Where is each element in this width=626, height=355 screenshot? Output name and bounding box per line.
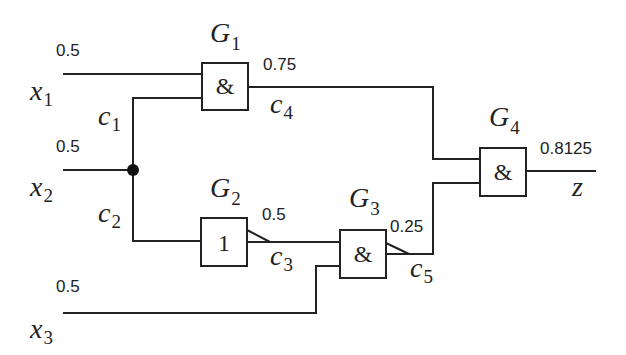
label-x1: x1 [29, 75, 53, 110]
prob-z: 0.8125 [540, 139, 592, 158]
gate-label-g2: G2 [210, 172, 241, 209]
label-c4: c4 [270, 88, 293, 123]
gate-g4: & [480, 148, 526, 196]
prob-x2: 0.5 [56, 137, 80, 156]
gate-g2: 1 [201, 218, 247, 266]
prob-c5: 0.25 [390, 217, 423, 236]
prob-x1: 0.5 [56, 41, 80, 60]
fanout-node [127, 164, 139, 176]
gate-label-g4: G4 [489, 101, 520, 138]
label-x3: x3 [29, 313, 53, 348]
gate-symbol: 1 [218, 230, 230, 256]
gate-symbol: & [354, 241, 373, 267]
wire-c4 [248, 87, 480, 159]
gate-symbol: & [216, 73, 235, 99]
prob-c4: 0.75 [263, 55, 296, 74]
label-c1: c1 [98, 100, 121, 135]
gate-label-g3: G3 [349, 182, 380, 219]
gate-label-g1: G1 [210, 17, 241, 54]
wire-c2 [133, 170, 201, 241]
inverter-mark-g2 [247, 230, 270, 242]
label-z: z [571, 171, 583, 202]
circuit-diagram: & 1 & & G1 G2 G3 G4 0.5 0.5 0.5 x1 x2 x3… [0, 0, 626, 355]
label-c5: c5 [410, 252, 433, 287]
label-x2: x2 [29, 171, 53, 206]
label-c3: c3 [270, 240, 293, 275]
prob-c3: 0.5 [262, 205, 286, 224]
prob-x3: 0.5 [56, 277, 80, 296]
gate-symbol: & [494, 159, 513, 185]
wire-x3 [63, 266, 340, 313]
wire-c1 [133, 98, 202, 170]
gate-g3: & [340, 230, 386, 278]
inverter-mark-g3 [386, 243, 409, 254]
gate-g1: & [202, 63, 248, 110]
label-c2: c2 [98, 197, 121, 232]
